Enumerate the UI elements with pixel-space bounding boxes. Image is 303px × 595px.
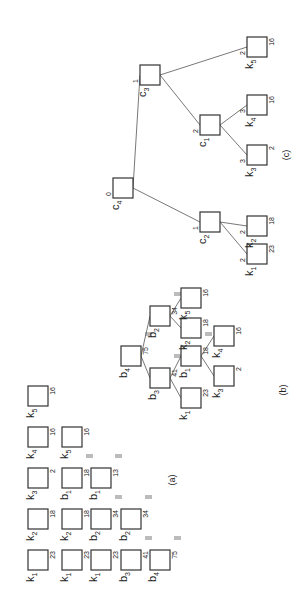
node-label: c2	[196, 235, 210, 245]
node-weight: 16	[268, 38, 275, 46]
edge-b4-b3	[141, 356, 150, 378]
node-b3: b341	[117, 537, 152, 582]
node-box	[247, 95, 267, 115]
node-box	[181, 288, 201, 308]
node-c4: c40	[105, 178, 133, 210]
node-weight: 2	[49, 469, 56, 473]
node-weight: 75	[171, 551, 178, 559]
node-box	[62, 468, 82, 488]
node-k5: k516	[177, 288, 209, 320]
node-depth: 2	[239, 230, 246, 234]
node-k4: k416	[210, 326, 242, 358]
node-depth: 2	[239, 51, 246, 55]
node-box	[28, 468, 48, 488]
node-b2: b234	[87, 496, 122, 541]
edge-c3-k5	[160, 47, 247, 75]
node-b2: b234	[117, 496, 152, 541]
node-c2: c21	[192, 212, 220, 244]
node-weight: 34	[142, 510, 149, 518]
node-weight: 18	[268, 217, 275, 225]
node-weight: 23	[49, 551, 56, 559]
node-b4: b475	[117, 333, 152, 378]
panel-label-b: (b)	[278, 384, 288, 395]
node-box	[62, 509, 82, 529]
node-weight: 16	[202, 289, 209, 297]
node-k5: k516	[24, 386, 56, 418]
node-weight: 18	[49, 510, 56, 518]
node-weight: 2	[235, 367, 242, 371]
node-weight: 13	[112, 469, 119, 477]
node-label: k1	[58, 573, 72, 583]
node-label: k4	[210, 349, 224, 359]
node-box	[62, 550, 82, 570]
node-c3: c31	[132, 65, 160, 97]
node-k3: k32	[24, 468, 56, 500]
node-label: c1	[196, 138, 210, 148]
node-b1: b118	[58, 455, 93, 500]
node-box	[247, 145, 267, 165]
node-box	[113, 178, 133, 198]
node-label: k2	[24, 532, 38, 542]
node-box	[28, 386, 48, 406]
node-label: b2	[146, 328, 160, 338]
node-box	[28, 427, 48, 447]
node-box	[140, 65, 160, 85]
node-weight: 16	[49, 428, 56, 436]
node-label: k3	[243, 168, 257, 178]
node-label: k4	[24, 450, 38, 460]
node-depth: 3	[239, 159, 246, 163]
figure-canvas: k123k218k32k416k516k123k218b118k516k123b…	[0, 0, 303, 595]
node-label: k1	[24, 573, 38, 583]
node-box	[121, 346, 141, 366]
node-weight: 75	[142, 347, 149, 355]
node-label: k5	[24, 409, 38, 419]
node-b2: b234	[146, 293, 181, 338]
node-depth: 1	[192, 226, 199, 230]
node-label: b4	[146, 572, 160, 582]
node-k2: k2182	[239, 216, 275, 248]
node-weight: 18	[83, 469, 90, 477]
node-label: k2	[243, 239, 257, 249]
node-label: c3	[136, 88, 150, 98]
node-b4: b475	[146, 537, 181, 582]
node-weight: 18	[202, 347, 209, 355]
node-k1: k123	[24, 550, 56, 582]
node-k3: k32	[210, 366, 242, 398]
node-label: k1	[87, 573, 101, 583]
node-box	[214, 326, 234, 346]
node-weight: 34	[112, 510, 119, 518]
node-weight: 23	[268, 245, 275, 253]
node-weight: 23	[202, 389, 209, 397]
node-k1: k123	[87, 550, 119, 582]
node-box	[181, 318, 201, 338]
edge-c2-k1	[220, 222, 247, 254]
node-label: b3	[146, 390, 160, 400]
huffman-tree-figure: k123k218k32k416k516k123k218b118k516k123b…	[0, 0, 303, 595]
node-box	[150, 306, 170, 326]
node-box	[28, 550, 48, 570]
node-box	[181, 388, 201, 408]
panel-label-c: (c)	[281, 150, 291, 161]
node-k3: k323	[239, 145, 275, 177]
node-box	[62, 427, 82, 447]
node-box	[200, 212, 220, 232]
node-k1: k123	[58, 550, 90, 582]
node-weight: 34	[171, 307, 178, 315]
node-label: b3	[117, 572, 131, 582]
node-label: k5	[177, 311, 191, 321]
node-k5: k5162	[239, 37, 275, 69]
edge-c2-k2	[220, 222, 247, 226]
node-k1: k123	[177, 388, 209, 420]
node-label: b2	[87, 531, 101, 541]
node-box	[91, 509, 111, 529]
node-weight: 16	[49, 387, 56, 395]
node-depth: 0	[105, 192, 112, 196]
node-k4: k4163	[239, 95, 275, 127]
node-weight: 2	[268, 146, 275, 150]
node-label: b1	[177, 368, 191, 378]
node-box	[91, 468, 111, 488]
node-label: k3	[24, 491, 38, 501]
node-depth: 3	[239, 109, 246, 113]
node-weight: 18	[83, 510, 90, 518]
node-label: b4	[117, 368, 131, 378]
